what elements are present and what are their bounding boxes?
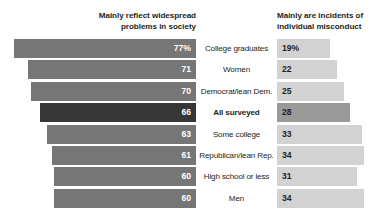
bar-right-value: 22 — [282, 60, 292, 79]
bar-left-track: 77% — [0, 39, 196, 58]
bar-left-value: 60 — [181, 189, 191, 208]
bar-left — [54, 167, 196, 186]
bar-right-value: 33 — [282, 125, 292, 144]
category-label: All surveyed — [198, 103, 275, 122]
bar-right-track: 34 — [277, 189, 378, 208]
bar-left-value: 63 — [181, 125, 191, 144]
category-label: Some college — [198, 125, 275, 144]
bar-left — [28, 60, 196, 79]
column-header-right: Mainly are incidents of individual misco… — [277, 11, 378, 32]
bar-right-track: 22 — [277, 60, 378, 79]
bar-left — [14, 39, 196, 58]
bar-left-track: 60 — [0, 167, 196, 186]
bar-right-value: 34 — [282, 146, 292, 165]
bar-right-track: 19% — [277, 39, 378, 58]
bar-left-value: 77% — [174, 39, 191, 58]
category-label: College graduates — [198, 39, 275, 58]
bar-left-value: 66 — [181, 103, 191, 122]
chart-row: 77%College graduates19% — [0, 39, 378, 58]
bar-left-value: 70 — [181, 82, 191, 101]
bar-left-track: 71 — [0, 60, 196, 79]
bar-right-track: 28 — [277, 103, 378, 122]
bar-left-track: 63 — [0, 125, 196, 144]
bar-left-track: 61 — [0, 146, 196, 165]
bar-right-value: 31 — [282, 167, 292, 186]
bar-right-track: 33 — [277, 125, 378, 144]
bar-left-value: 61 — [181, 146, 191, 165]
column-header-left: Mainly reflect widespread problems in so… — [80, 11, 196, 32]
bar-left-value: 60 — [181, 167, 191, 186]
category-label: Democrat/lean Dem. — [198, 82, 275, 101]
bar-left-track: 70 — [0, 82, 196, 101]
bar-left — [31, 82, 197, 101]
bar-right-track: 25 — [277, 82, 378, 101]
bar-left-track: 66 — [0, 103, 196, 122]
bar-left — [54, 189, 196, 208]
bar-left — [40, 103, 196, 122]
chart-row: 60High school or less31 — [0, 167, 378, 186]
chart-row: 63Some college33 — [0, 125, 378, 144]
bar-right-track: 34 — [277, 146, 378, 165]
chart-container: Mainly reflect widespread problems in so… — [0, 0, 378, 219]
category-label: Women — [198, 60, 275, 79]
bar-left-value: 71 — [181, 60, 191, 79]
category-label: Republican/lean Rep. — [198, 146, 275, 165]
bar-right-track: 31 — [277, 167, 378, 186]
chart-row: 71Women22 — [0, 60, 378, 79]
chart-row: 70Democrat/lean Dem.25 — [0, 82, 378, 101]
category-label: Men — [198, 189, 275, 208]
bar-right-value: 25 — [282, 82, 292, 101]
bar-right-value: 34 — [282, 189, 292, 208]
chart-row: 61Republican/lean Rep.34 — [0, 146, 378, 165]
bar-left — [47, 125, 196, 144]
chart-row: 60Men34 — [0, 189, 378, 208]
bar-left — [52, 146, 196, 165]
chart-row: 66All surveyed28 — [0, 103, 378, 122]
bar-right-value: 28 — [282, 103, 292, 122]
category-label: High school or less — [198, 167, 275, 186]
bar-right-value: 19% — [282, 39, 299, 58]
bar-left-track: 60 — [0, 189, 196, 208]
